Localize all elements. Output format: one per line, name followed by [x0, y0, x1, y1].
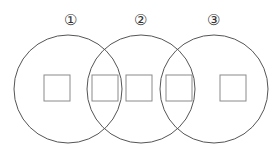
square-3	[126, 75, 152, 101]
circle-1	[14, 35, 122, 143]
label-3: ③	[207, 13, 220, 28]
square-2	[92, 75, 118, 101]
venn-diagram: ① ② ③	[0, 0, 279, 153]
square-5	[220, 75, 246, 101]
circle-3	[160, 35, 268, 143]
square-4	[166, 75, 192, 101]
circle-2	[87, 35, 195, 143]
square-1	[44, 75, 70, 101]
label-2: ②	[134, 13, 147, 28]
label-1: ①	[64, 13, 77, 28]
